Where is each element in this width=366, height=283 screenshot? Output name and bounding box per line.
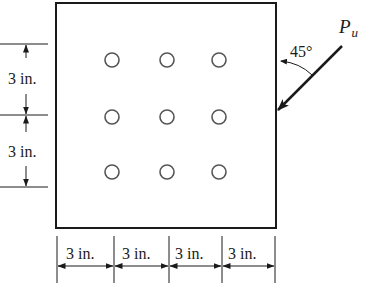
- bolt-hole: [212, 53, 226, 67]
- bolt-hole: [160, 110, 174, 124]
- horizontal-dimension-label-3: 3 in.: [175, 245, 203, 262]
- horizontal-dimension-label-4: 3 in.: [228, 245, 256, 262]
- bolt-hole: [160, 165, 174, 179]
- bolted-plate-diagram: 3 in. 3 in. 3 in. 3 in. 3 in. 3 in. 45° …: [0, 0, 366, 283]
- bolt-hole: [160, 53, 174, 67]
- vertical-dimension-group: [0, 44, 48, 187]
- bolt-hole: [105, 53, 119, 67]
- horizontal-dimension-label-1: 3 in.: [66, 245, 94, 262]
- angle-arc-icon: [281, 61, 312, 75]
- vertical-dimension-label-2: 3 in.: [8, 143, 36, 160]
- load-symbol: P: [338, 16, 351, 37]
- load-label: Pu: [338, 16, 359, 40]
- bolt-hole: [105, 165, 119, 179]
- horizontal-dimension-label-2: 3 in.: [122, 245, 150, 262]
- bolt-hole: [212, 165, 226, 179]
- bolt-hole: [212, 110, 226, 124]
- load-angle-label: 45°: [290, 43, 312, 60]
- load-subscript: u: [352, 25, 359, 40]
- plate: [56, 3, 276, 228]
- bolt-group: [105, 53, 226, 179]
- bolt-hole: [105, 110, 119, 124]
- vertical-dimension-label-1: 3 in.: [8, 70, 36, 87]
